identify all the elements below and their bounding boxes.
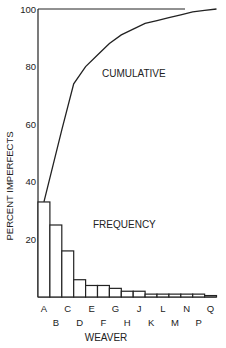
y-axis-title: PERCENT IMPERFECTS — [4, 131, 15, 240]
x-tick-label: N — [183, 303, 190, 314]
bar-M — [169, 294, 181, 297]
x-tick-label: M — [171, 317, 179, 328]
cumulative-annotation: CUMULATIVE — [102, 68, 166, 79]
y-tick-label: 100 — [20, 4, 36, 15]
bar-C — [62, 251, 74, 297]
bar-D — [74, 280, 86, 297]
bar-A — [38, 202, 50, 297]
x-tick-label: Q — [207, 303, 214, 314]
bar-B — [50, 225, 62, 297]
x-axis-title: WEAVER — [85, 332, 128, 343]
x-tick-label: A — [41, 303, 48, 314]
x-tick-label: J — [137, 303, 142, 314]
x-tick-label: G — [112, 303, 119, 314]
y-tick-label: 20 — [25, 234, 36, 245]
bar-G — [109, 288, 121, 297]
bar-P — [193, 294, 205, 297]
x-tick-label: H — [124, 317, 131, 328]
x-tick-label: L — [160, 303, 165, 314]
y-tick-label: 40 — [25, 176, 36, 187]
y-tick-label: 60 — [25, 119, 36, 130]
x-tick-label: F — [101, 317, 107, 328]
x-axis-labels: ABCDEFGHJKLMNPQ — [41, 303, 214, 328]
bar-L — [157, 294, 169, 297]
bar-Q — [205, 296, 217, 297]
x-tick-label: D — [76, 317, 83, 328]
bar-N — [181, 294, 193, 297]
x-tick-label: C — [64, 303, 71, 314]
x-tick-label: K — [148, 317, 155, 328]
cumulative-line — [44, 9, 217, 202]
bar-F — [98, 285, 110, 297]
bar-H — [121, 291, 133, 297]
x-tick-label: E — [88, 303, 94, 314]
x-tick-label: P — [195, 317, 201, 328]
bar-K — [145, 294, 157, 297]
bar-J — [133, 291, 145, 297]
frequency-bars — [38, 202, 217, 297]
pareto-chart: 20406080100 ABCDEFGHJKLMNPQ CUMULATIVE F… — [0, 0, 226, 348]
frequency-annotation: FREQUENCY — [93, 219, 156, 230]
x-tick-label: B — [53, 317, 59, 328]
y-tick-label: 80 — [25, 61, 36, 72]
bar-E — [86, 285, 98, 297]
